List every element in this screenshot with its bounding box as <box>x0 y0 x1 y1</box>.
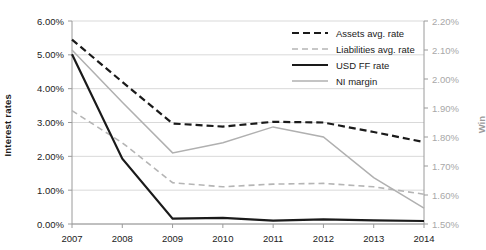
y-axis-right-tick-label: 2.00% <box>432 74 459 85</box>
y-axis-right-tick-label: 2.10% <box>432 45 459 56</box>
y-axis-left-tick-label: 6.00% <box>37 16 64 27</box>
y-axis-right-tick-label: 1.60% <box>432 190 459 201</box>
line-chart-plot: 0.00%1.00%2.00%3.00%4.00%5.00%6.00%1.50%… <box>0 0 486 250</box>
legend-label-assets-avg-rate: Assets avg. rate <box>336 28 404 39</box>
y-axis-right-tick-label: 1.90% <box>432 103 459 114</box>
x-axis-tick-label: 2009 <box>162 233 183 244</box>
x-axis-tick-label: 2011 <box>263 233 283 244</box>
y-axis-right-tick-label: 1.50% <box>432 219 459 230</box>
legend-label-usd-ff-rate: USD FF rate <box>336 60 389 71</box>
legend-label-liabilities-avg-rate: Liabilities avg. rate <box>336 44 415 55</box>
x-axis-tick-label: 2008 <box>112 233 133 244</box>
y-axis-left-tick-label: 5.00% <box>37 49 64 60</box>
x-axis-tick-label: 2007 <box>61 233 82 244</box>
legend-label-ni-margin: NI margin <box>336 76 377 87</box>
x-axis-tick-label: 2010 <box>212 233 233 244</box>
x-axis-tick-label: 2012 <box>313 233 334 244</box>
y-axis-left-tick-label: 3.00% <box>37 117 64 128</box>
y-axis-left-tick-label: 4.00% <box>37 83 64 94</box>
y-axis-left-tick-label: 1.00% <box>37 185 64 196</box>
y-axis-left-tick-label: 0.00% <box>37 219 64 230</box>
y-axis-left-tick-label: 2.00% <box>37 151 64 162</box>
y-axis-right-tick-label: 1.70% <box>432 161 459 172</box>
y-axis-right-tick-label: 1.80% <box>432 132 459 143</box>
series-line-ni-margin <box>72 50 424 208</box>
x-axis-tick-label: 2013 <box>363 233 384 244</box>
y-axis-right-tick-label: 2.20% <box>432 16 459 27</box>
x-axis-tick-label: 2014 <box>413 233 434 244</box>
series-line-liabilities-avg-rate <box>72 111 424 195</box>
chart-container: Interest rates Win 0.00%1.00%2.00%3.00%4… <box>0 0 486 250</box>
